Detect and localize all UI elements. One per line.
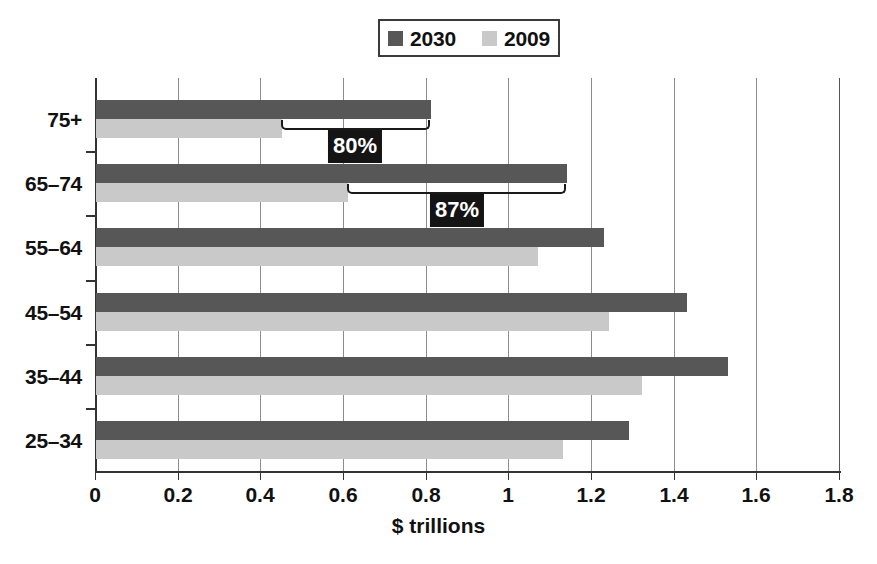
x-tick-label: 0.6 xyxy=(328,484,357,505)
bar-2030-45-54 xyxy=(96,293,687,312)
bar-2009-65-74 xyxy=(96,183,348,202)
legend-label-2030: 2030 xyxy=(410,28,456,49)
x-tick-label: 0 xyxy=(89,484,101,505)
x-tick-label: 1.4 xyxy=(659,484,688,505)
x-axis-line xyxy=(95,471,841,473)
y-tick xyxy=(86,280,96,282)
annotation-percent-chip: 80% xyxy=(328,130,382,163)
annotation-bracket xyxy=(281,120,430,130)
bar-2009-35-44 xyxy=(96,376,642,395)
x-tick-label: 1 xyxy=(502,484,514,505)
legend-label-2009: 2009 xyxy=(504,28,550,49)
legend-entry-2030: 2030 xyxy=(388,28,456,49)
bar-2009-75- xyxy=(96,119,282,138)
bar-2030-25-34 xyxy=(96,421,629,440)
bar-2030-55-64 xyxy=(96,228,604,247)
bar-2009-25-34 xyxy=(96,440,563,459)
y-tick xyxy=(86,344,96,346)
bar-2030-35-44 xyxy=(96,357,728,376)
gridline xyxy=(756,78,757,472)
y-axis-label-55-64: 55–64 xyxy=(25,237,82,258)
y-axis-label-45-54: 45–54 xyxy=(25,302,82,323)
gridline xyxy=(839,78,840,472)
y-tick xyxy=(86,408,96,410)
y-axis-label-35-44: 35–44 xyxy=(25,366,82,387)
x-tick-label: 1.8 xyxy=(824,484,853,505)
annotation-percent-chip: 87% xyxy=(430,194,484,227)
bar-chart: 2030 2009 00.20.40.60.811.21.41.61.8 75+… xyxy=(0,0,877,564)
gridline xyxy=(591,78,592,472)
gridline xyxy=(508,78,509,472)
x-axis-title: $ trillions xyxy=(0,515,877,536)
legend-swatch-2009 xyxy=(482,31,497,46)
y-axis-label-75-: 75+ xyxy=(47,109,82,130)
bar-2030-75- xyxy=(96,100,431,119)
y-tick xyxy=(86,215,96,217)
x-tick-label: 0.8 xyxy=(411,484,440,505)
gridline xyxy=(674,78,675,472)
chart-legend: 2030 2009 xyxy=(378,19,560,57)
x-tick-label: 0.2 xyxy=(163,484,192,505)
x-tick-label: 1.2 xyxy=(576,484,605,505)
gridline xyxy=(426,78,427,472)
bar-2009-55-64 xyxy=(96,247,538,266)
legend-swatch-2030 xyxy=(388,31,403,46)
x-tick-label: 0.4 xyxy=(245,484,274,505)
y-tick xyxy=(86,151,96,153)
x-tick-label: 1.6 xyxy=(741,484,770,505)
bar-2030-65-74 xyxy=(96,164,567,183)
y-axis-label-25-34: 25–34 xyxy=(25,430,82,451)
y-axis-label-65-74: 65–74 xyxy=(25,173,82,194)
bar-2009-45-54 xyxy=(96,312,609,331)
legend-entry-2009: 2009 xyxy=(482,28,550,49)
annotation-bracket xyxy=(347,184,566,194)
